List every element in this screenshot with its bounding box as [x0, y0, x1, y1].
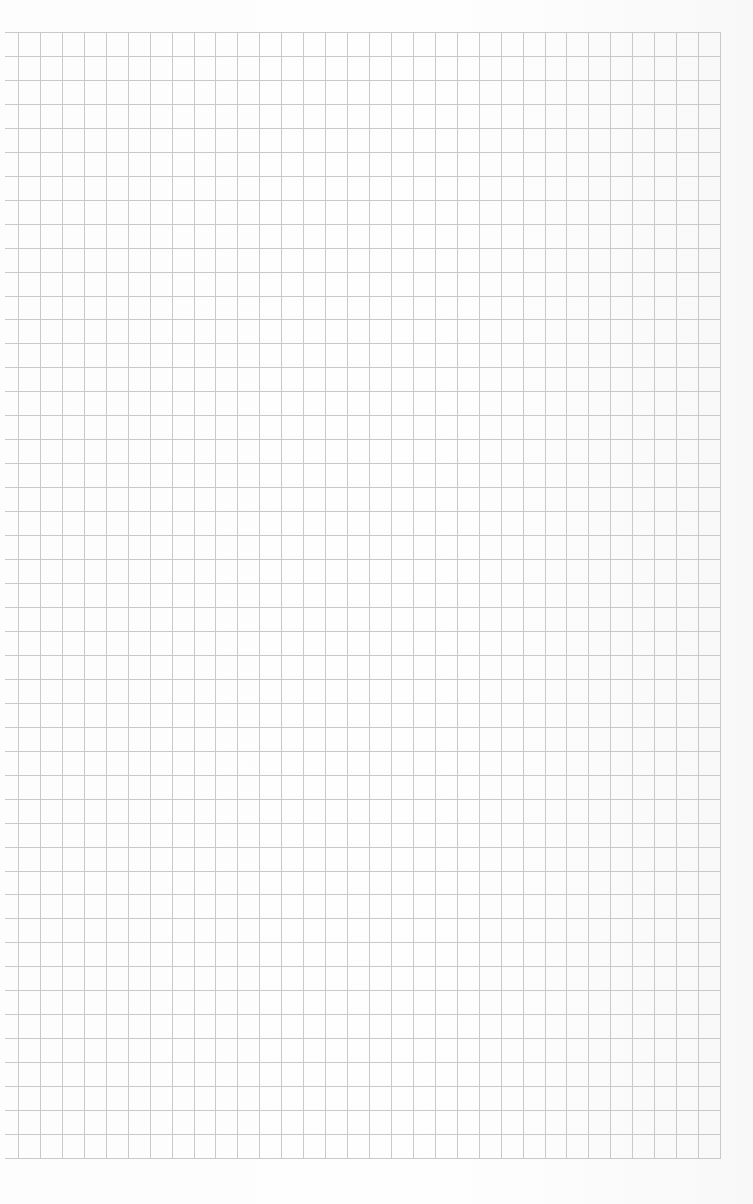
- grid-horizontal-line: [5, 104, 721, 105]
- grid-horizontal-line: [5, 1086, 721, 1087]
- grid-horizontal-line: [5, 942, 721, 943]
- grid-horizontal-line: [5, 32, 721, 33]
- grid-horizontal-line: [5, 152, 721, 153]
- grid-horizontal-line: [5, 1062, 721, 1063]
- grid-horizontal-line: [5, 439, 721, 440]
- grid-horizontal-line: [5, 80, 721, 81]
- grid-horizontal-line: [5, 296, 721, 297]
- grid-horizontal-line: [5, 751, 721, 752]
- grid-vertical-line: [18, 32, 19, 1159]
- grid-vertical-line: [106, 32, 107, 1159]
- grid-vertical-line: [237, 32, 238, 1159]
- grid-horizontal-line: [5, 727, 721, 728]
- grid-horizontal-line: [5, 631, 721, 632]
- grid-vertical-line: [610, 32, 611, 1159]
- grid-horizontal-line: [5, 367, 721, 368]
- grid-horizontal-line: [5, 1014, 721, 1015]
- grid-horizontal-line: [5, 415, 721, 416]
- grid-horizontal-line: [5, 1038, 721, 1039]
- grid-vertical-line: [545, 32, 546, 1159]
- grid-horizontal-line: [5, 559, 721, 560]
- grid-vertical-line: [84, 32, 85, 1159]
- grid-horizontal-line: [5, 583, 721, 584]
- grid-vertical-line: [698, 32, 699, 1159]
- grid-vertical-line: [369, 32, 370, 1159]
- grid-vertical-line: [215, 32, 216, 1159]
- grid-horizontal-line: [5, 679, 721, 680]
- grid-horizontal-line: [5, 799, 721, 800]
- grid-vertical-line: [501, 32, 502, 1159]
- grid-vertical-line: [62, 32, 63, 1159]
- grid-vertical-line: [676, 32, 677, 1159]
- grid-horizontal-line: [5, 56, 721, 57]
- grid-horizontal-line: [5, 319, 721, 320]
- grid-vertical-line: [172, 32, 173, 1159]
- grid-vertical-line: [128, 32, 129, 1159]
- grid-vertical-line: [391, 32, 392, 1159]
- grid-vertical-line: [523, 32, 524, 1159]
- grid-horizontal-line: [5, 871, 721, 872]
- grid-horizontal-line: [5, 823, 721, 824]
- grid-horizontal-line: [5, 966, 721, 967]
- grid-horizontal-line: [5, 487, 721, 488]
- grid-horizontal-line: [5, 847, 721, 848]
- grid-horizontal-line: [5, 272, 721, 273]
- grid-horizontal-line: [5, 248, 721, 249]
- grid-horizontal-line: [5, 176, 721, 177]
- grid-vertical-line: [347, 32, 348, 1159]
- grid-horizontal-line: [5, 224, 721, 225]
- grid-horizontal-line: [5, 128, 721, 129]
- grid-horizontal-line: [5, 775, 721, 776]
- grid-vertical-line: [281, 32, 282, 1159]
- grid-horizontal-line: [5, 1134, 721, 1135]
- grid-vertical-line: [654, 32, 655, 1159]
- grid-vertical-line: [150, 32, 151, 1159]
- grid-horizontal-line: [5, 200, 721, 201]
- grid-horizontal-line: [5, 535, 721, 536]
- grid-horizontal-line: [5, 511, 721, 512]
- grid-horizontal-line: [5, 391, 721, 392]
- square-grid: [0, 0, 753, 1204]
- grid-horizontal-line: [5, 343, 721, 344]
- grid-vertical-line: [303, 32, 304, 1159]
- grid-vertical-line: [588, 32, 589, 1159]
- grid-vertical-line: [413, 32, 414, 1159]
- grid-vertical-line: [259, 32, 260, 1159]
- grid-vertical-line: [720, 32, 721, 1159]
- grid-horizontal-line: [5, 990, 721, 991]
- grid-vertical-line: [40, 32, 41, 1159]
- grid-horizontal-line: [5, 655, 721, 656]
- grid-horizontal-line: [5, 894, 721, 895]
- grid-vertical-line: [435, 32, 436, 1159]
- grid-vertical-line: [479, 32, 480, 1159]
- grid-vertical-line: [632, 32, 633, 1159]
- grid-horizontal-line: [5, 1110, 721, 1111]
- grid-horizontal-line: [5, 463, 721, 464]
- graph-paper-sheet: [0, 0, 753, 1204]
- grid-vertical-line: [457, 32, 458, 1159]
- grid-horizontal-line: [5, 607, 721, 608]
- grid-horizontal-line: [5, 703, 721, 704]
- grid-vertical-line: [566, 32, 567, 1159]
- grid-vertical-line: [194, 32, 195, 1159]
- grid-vertical-line: [325, 32, 326, 1159]
- grid-horizontal-line: [5, 1158, 721, 1159]
- grid-horizontal-line: [5, 918, 721, 919]
